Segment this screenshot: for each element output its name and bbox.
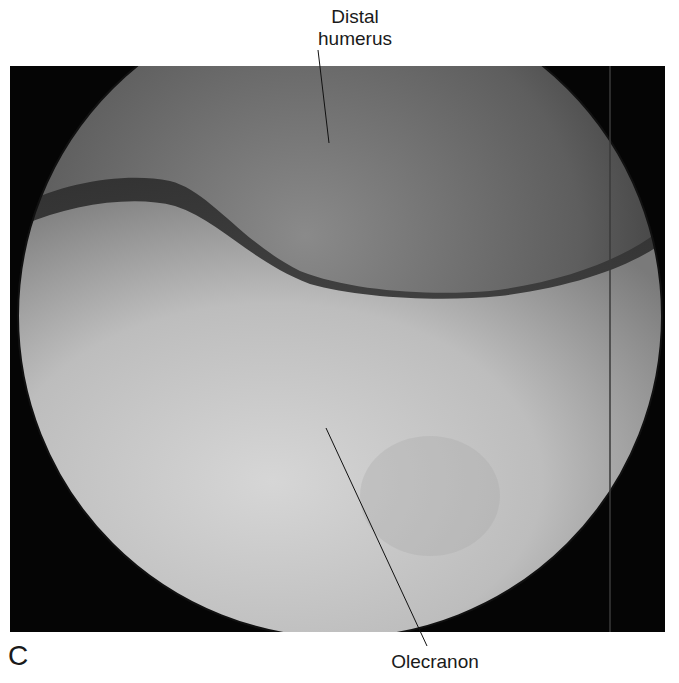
- label-distal-humerus: Distal humerus: [300, 6, 410, 50]
- label-olecranon: Olecranon: [380, 651, 490, 673]
- arthroscopic-image-panel: [10, 66, 665, 632]
- label-distal-humerus-line2: humerus: [300, 28, 410, 50]
- arthroscope-view: [10, 66, 665, 632]
- label-distal-humerus-line1: Distal: [300, 6, 410, 28]
- panel-letter: C: [8, 640, 28, 672]
